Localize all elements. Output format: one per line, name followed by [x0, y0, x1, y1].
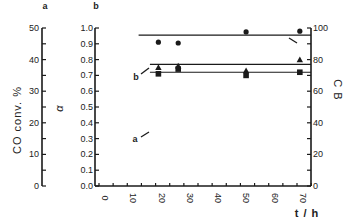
- axis-b-tick-label: 0.9: [80, 39, 93, 49]
- x-axis-title: t / h: [295, 207, 320, 219]
- data-point-circle: [243, 29, 248, 34]
- axis-b-tick-label: 0.4: [80, 118, 93, 128]
- y-axis-title-co-conv: CO conv. %: [11, 86, 23, 154]
- x-axis-tick-label: 60: [270, 193, 280, 203]
- axis-b-tick-label: 0.5: [80, 102, 93, 112]
- axis-a-tick-label: 0: [34, 181, 39, 191]
- axis-b-tick-label: 0.7: [80, 70, 93, 80]
- x-axis-tick-label: 30: [185, 193, 195, 203]
- annotation-cb-arrow: [289, 38, 297, 43]
- data-point-triangle: [155, 64, 161, 70]
- axis-a-tick-label: 20: [29, 118, 39, 128]
- axis-a-tick-label: 40: [29, 55, 39, 65]
- y-axis-title-alpha: α: [53, 104, 65, 111]
- panel-label-b: b: [93, 1, 99, 11]
- data-point-square: [243, 73, 249, 79]
- data-point-square: [156, 71, 162, 77]
- axis-right-tick-label: 0: [313, 181, 318, 191]
- data-point-circle: [176, 40, 181, 45]
- x-axis-tick-label: 70: [298, 193, 308, 203]
- axis-right-tick-label: 100: [313, 23, 328, 33]
- annotation-b: b: [133, 72, 139, 82]
- annotation-a: a: [132, 134, 138, 144]
- axis-a-tick-label: 30: [29, 86, 39, 96]
- data-point-square: [175, 66, 181, 72]
- axis-a-tick-label: 50: [29, 23, 39, 33]
- chart: 01020304050aCO conv. %0.00.10.20.30.40.5…: [0, 0, 343, 222]
- axis-b-tick-label: 0.2: [80, 149, 93, 159]
- axis-b-tick-label: 0.3: [80, 134, 93, 144]
- data-point-square: [297, 69, 303, 75]
- x-axis-tick-label: 0: [100, 195, 110, 200]
- data-point-triangle: [297, 56, 303, 62]
- axis-b-tick-label: 1.0: [80, 23, 93, 33]
- x-axis-tick-label: 50: [241, 193, 251, 203]
- x-axis-tick-label: 40: [213, 193, 223, 203]
- x-axis-tick-label: 10: [128, 193, 138, 203]
- axis-right-tick-label: 60: [313, 86, 323, 96]
- axis-right-tick-label: 20: [313, 149, 323, 159]
- data-point-circle: [156, 40, 161, 45]
- axis-b-tick-label: 0.8: [80, 55, 93, 65]
- data-point-circle: [297, 29, 302, 34]
- axis-right-tick-label: 40: [313, 118, 323, 128]
- panel-label-a: a: [42, 1, 48, 11]
- annotation-a-arrow: [141, 132, 149, 137]
- axis-a-tick-label: 10: [29, 149, 39, 159]
- axis-b-tick-label: 0.6: [80, 86, 93, 96]
- axis-b-tick-label: 0.1: [80, 165, 93, 175]
- annotation-b-arrow: [141, 68, 149, 74]
- x-axis-tick-label: 20: [157, 193, 167, 203]
- axis-b-tick-label: 0.0: [80, 181, 93, 191]
- y-axis-title-cb: C B: [332, 79, 343, 100]
- axis-right-tick-label: 80: [313, 55, 323, 65]
